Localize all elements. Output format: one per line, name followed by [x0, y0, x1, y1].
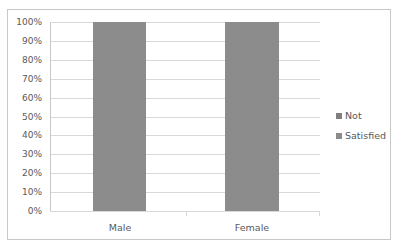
gridline-90 [50, 41, 320, 42]
legend-label: Satisfied [345, 130, 386, 141]
y-tick-label: 40% [4, 130, 42, 140]
x-axis-line [50, 211, 320, 212]
gridline-50 [50, 117, 320, 118]
y-tick-label: 90% [4, 36, 42, 46]
legend-item-satisfied: Satisfied [336, 130, 386, 141]
gridline-100 [50, 22, 320, 23]
gridline-10 [50, 192, 320, 193]
y-tick-label: 100% [4, 17, 42, 27]
y-tick-label: 50% [4, 112, 42, 122]
plot-area [50, 22, 320, 211]
gridline-40 [50, 135, 320, 136]
gridline-20 [50, 173, 320, 174]
y-tick-label: 10% [4, 187, 42, 197]
gridline-70 [50, 79, 320, 80]
y-axis-line [50, 22, 51, 212]
x-tick-mark [319, 212, 320, 216]
legend-label: Not [345, 110, 362, 121]
legend-swatch-icon [336, 133, 342, 139]
y-tick-label: 80% [4, 55, 42, 65]
legend-item-not: Not [336, 110, 362, 121]
x-label-female: Female [212, 222, 292, 233]
y-tick-label: 20% [4, 168, 42, 178]
gridline-80 [50, 60, 320, 61]
y-tick-label: 30% [4, 149, 42, 159]
legend-swatch-icon [336, 113, 342, 119]
x-label-male: Male [80, 222, 160, 233]
gridline-30 [50, 154, 320, 155]
bar-male [93, 22, 146, 211]
y-tick-label: 70% [4, 74, 42, 84]
x-tick-mark [186, 212, 187, 216]
bar-female [225, 22, 279, 211]
y-tick-label: 0% [4, 206, 42, 216]
gridline-60 [50, 98, 320, 99]
y-tick-label: 60% [4, 93, 42, 103]
